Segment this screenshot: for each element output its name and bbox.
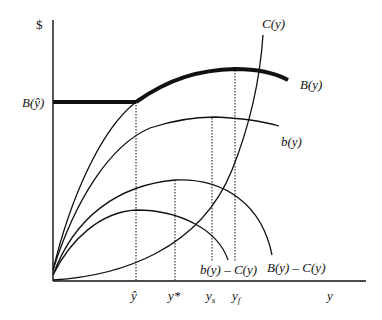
x-mark-y-hat: ŷ bbox=[129, 288, 137, 303]
label-C: C(y) bbox=[262, 16, 285, 31]
x-mark-y-f: yf bbox=[230, 288, 242, 305]
y-mark-B-y-hat: B(ŷ) bbox=[22, 95, 44, 110]
label-b-minus-C: b(y) – C(y) bbox=[200, 262, 257, 277]
y-axis-label: $ bbox=[36, 17, 43, 32]
x-mark-y-star: y* bbox=[166, 288, 181, 303]
x-axis-label: y bbox=[325, 288, 333, 303]
label-B: B(y) bbox=[300, 77, 322, 92]
curve-B-thick bbox=[136, 69, 288, 102]
label-B-minus-C: B(y) – C(y) bbox=[267, 260, 325, 275]
economics-diagram: $ y B(ŷ) ŷ y* ys yf C(y) B(y) b(y) b(y) … bbox=[0, 0, 382, 320]
curve-C bbox=[53, 35, 263, 280]
label-b: b(y) bbox=[281, 134, 302, 149]
curve-B-lower bbox=[53, 102, 136, 270]
x-mark-y-s: ys bbox=[204, 288, 216, 305]
